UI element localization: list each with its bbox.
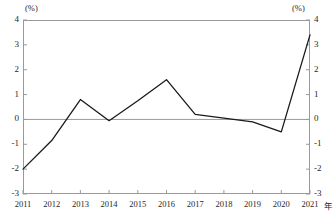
data-series-line [23, 35, 310, 169]
line-chart: (%) (%) 43210-1-2-3 43210-1-2-3 20112012… [0, 0, 334, 222]
chart-series-layer [0, 0, 334, 222]
